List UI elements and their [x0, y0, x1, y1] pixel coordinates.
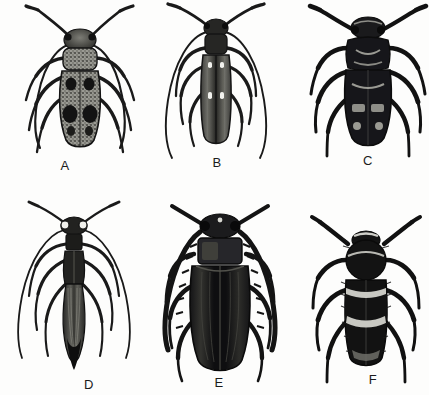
specimen-e: E [150, 198, 290, 395]
beetle-plate: A [0, 0, 429, 395]
specimen-a: A [10, 0, 150, 175]
beetle-f-pronotum [346, 240, 386, 280]
specimen-label-b: B [212, 155, 221, 170]
specimen-f: F [296, 198, 429, 395]
specimen-label-d: D [84, 377, 94, 392]
specimen-label-c: C [363, 153, 373, 168]
specimen-b: B [150, 0, 285, 175]
specimen-label-e: E [214, 375, 223, 390]
beetle-d-pronotum [66, 234, 82, 250]
specimen-d: D [4, 198, 144, 395]
specimen-label-f: F [369, 372, 377, 387]
specimen-label-a: A [60, 158, 69, 173]
beetle-a-pronotum [63, 48, 97, 70]
beetle-b-pronotum [205, 34, 227, 54]
specimen-c: C [296, 0, 429, 175]
